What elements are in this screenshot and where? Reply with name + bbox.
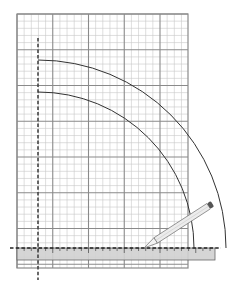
construction-diagram: [0, 0, 227, 288]
graph-paper-minor-grid: [17, 14, 188, 268]
outer-arc: [38, 60, 226, 248]
diagram-canvas: [0, 0, 227, 288]
ruler: [17, 248, 215, 260]
